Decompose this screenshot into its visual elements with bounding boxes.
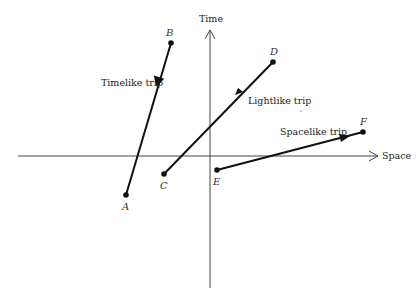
time-axis	[205, 30, 215, 288]
point-b-dot	[168, 40, 174, 46]
lightlike-trip-label: Lightlike trip	[248, 95, 311, 106]
point-a-dot	[123, 192, 129, 198]
point-d-dot	[270, 59, 276, 65]
point-d-label: D	[269, 46, 278, 57]
speck	[300, 110, 301, 111]
spacetime-diagram: Time Space Timelike trip A B Lightlike t…	[0, 0, 419, 303]
point-b-label: B	[165, 27, 173, 38]
point-f-dot	[360, 129, 366, 135]
point-c-label: C	[160, 180, 168, 191]
point-c-dot	[161, 171, 167, 177]
point-e-label: E	[212, 176, 221, 187]
time-axis-label: Time	[199, 13, 223, 24]
timelike-trip-label: Timelike trip	[101, 77, 163, 88]
point-e-dot	[214, 167, 220, 173]
point-a-label: A	[121, 201, 129, 212]
space-axis-label: Space	[382, 150, 412, 161]
spacelike-trip-label: Spacelike trip	[280, 126, 347, 137]
point-f-label: F	[359, 116, 368, 127]
space-axis	[18, 151, 378, 161]
